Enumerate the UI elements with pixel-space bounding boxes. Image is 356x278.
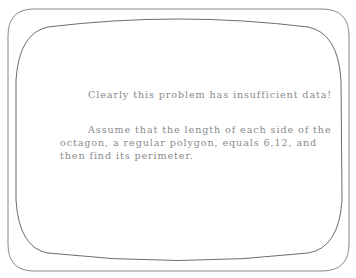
paragraph-line-3: then find its perimeter. xyxy=(60,150,194,161)
paragraph-line-1: Assume that the length of each side of t… xyxy=(88,124,331,135)
screen-heading: Clearly this problem has insufficient da… xyxy=(88,89,332,100)
paragraph-line-2: octagon, a regular polygon, equals 6,12,… xyxy=(60,137,317,148)
